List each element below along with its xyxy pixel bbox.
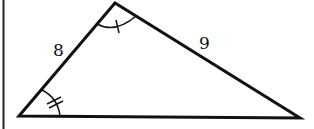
triangle-shape [19,3,300,118]
triangle-diagram: 8 9 [0,0,314,129]
side-label-right: 9 [199,33,210,53]
side-label-left: 8 [53,40,64,60]
bottom-left-angle-arc [42,90,60,116]
